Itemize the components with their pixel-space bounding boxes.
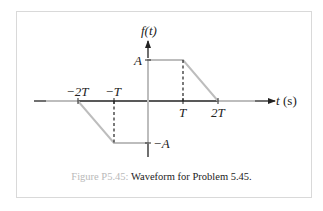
figure-caption: Figure P5.45: Waveform for Problem 5.45. — [0, 171, 323, 182]
tick-label-A: A — [133, 53, 142, 68]
x-axis-var-label: t — [276, 93, 280, 108]
tick-label-negA: −A — [153, 136, 170, 151]
x-axis-unit-label: (s) — [283, 93, 297, 108]
tick-label-negT: −T — [105, 84, 122, 99]
y-axis-label: f(t) — [141, 23, 157, 38]
tick-label-neg2T: −2T — [66, 84, 89, 99]
tick-label-T: T — [179, 105, 187, 120]
caption-text: Waveform for Problem 5.45. — [128, 171, 251, 182]
tick-label-2T: 2T — [211, 105, 226, 120]
caption-label: Figure P5.45: — [71, 171, 128, 182]
